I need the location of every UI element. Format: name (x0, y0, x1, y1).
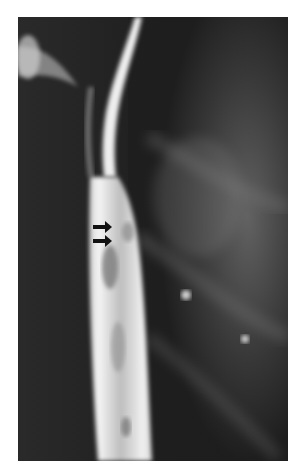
radiograph-image (18, 17, 288, 461)
radiograph-drawing (18, 17, 288, 461)
